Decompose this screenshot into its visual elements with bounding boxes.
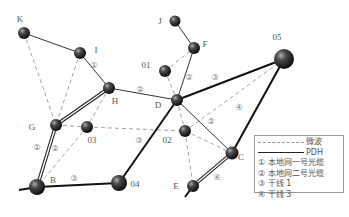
edge-05-02-dashed: [185, 59, 284, 131]
node-sphere-icon: [159, 65, 171, 77]
edge-label: ①: [90, 61, 97, 70]
node-sphere-icon: [187, 180, 199, 192]
legend-label: ① 本地网一号光缆: [258, 158, 324, 169]
edge-k-i-thin: [24, 33, 80, 53]
node-sphere-icon: [274, 49, 294, 69]
legend-label: PDH: [306, 148, 323, 159]
node-sphere-icon: [103, 82, 115, 94]
edge-label: ③: [211, 73, 218, 82]
edges-layer: [19, 21, 284, 197]
node-sphere-icon: [18, 27, 30, 39]
node-label: K: [17, 14, 24, 24]
legend-item-pdh: PDH: [258, 148, 340, 159]
edge-label: ③: [70, 174, 77, 183]
node-label: 01: [142, 60, 151, 70]
node-sphere-icon: [50, 119, 62, 131]
node-label: 05: [273, 32, 283, 42]
legend-label: ③ 干线 1: [258, 179, 291, 190]
node-c: C: [226, 147, 245, 163]
node-label: E: [173, 181, 179, 191]
edge-i-h-thin: [80, 53, 109, 88]
legend: 微波 PDH ① 本地网一号光缆 ② 本地网二号光缆 ③ 干线 1 ④ 干线 3: [254, 135, 344, 193]
node-label: F: [202, 39, 207, 49]
node-sphere-icon: [170, 16, 181, 27]
legend-item-cable-2: ② 本地网二号光缆: [258, 169, 340, 180]
edge-label: ②: [136, 85, 143, 94]
node-f: F: [188, 39, 208, 54]
solid-line-swatch: [258, 152, 304, 153]
node-label: B: [50, 175, 56, 185]
legend-item-cable-1: ① 本地网一号光缆: [258, 158, 340, 169]
node-label: 03: [88, 135, 98, 145]
node-04: 04: [111, 175, 140, 191]
node-sphere-icon: [74, 47, 86, 59]
legend-label: 微波: [306, 137, 322, 148]
node-sphere-icon: [188, 42, 200, 54]
edge-02-e-dashed: [185, 131, 193, 186]
node-01: 01: [142, 60, 172, 77]
edge-02-c-dashed: [185, 131, 232, 153]
node-05: 05: [273, 32, 295, 69]
edge-g-h-double: [56, 88, 109, 125]
node-label: 04: [131, 179, 141, 189]
node-sphere-icon: [171, 94, 183, 106]
edge-k-g-dashed: [24, 33, 56, 125]
node-sphere-icon: [179, 125, 191, 137]
node-label: D: [155, 100, 162, 110]
edge-i-g-dashed: [56, 53, 80, 125]
edge-label: ③: [135, 136, 142, 145]
legend-label: ② 本地网二号光缆: [258, 169, 324, 180]
edge-label: ②: [51, 144, 58, 153]
node-g: G: [29, 119, 62, 132]
node-02: 02: [163, 125, 192, 145]
edge-labels-layer: ①②②②③③③①④②④: [33, 61, 242, 183]
node-b: B: [29, 175, 56, 195]
dashed-line-swatch: [258, 142, 304, 143]
node-sphere-icon: [81, 121, 93, 133]
node-label: 02: [163, 135, 172, 145]
node-label: J: [158, 16, 162, 26]
node-i: I: [74, 45, 98, 59]
node-sphere-icon: [29, 179, 45, 195]
node-label: H: [112, 96, 119, 106]
edge-d-05-thick: [177, 59, 284, 100]
node-label: C: [238, 152, 244, 162]
legend-item-trunk-3: ④ 干线 3: [258, 190, 340, 201]
node-label: G: [29, 122, 36, 132]
nodes-layer: KIHDJF0105G0302CB04E: [17, 14, 294, 195]
edge-03-02-dashed: [87, 127, 185, 131]
node-label: I: [95, 45, 98, 55]
node-sphere-icon: [111, 175, 127, 191]
legend-item-trunk-1: ③ 干线 1: [258, 179, 340, 190]
node-sphere-icon: [226, 147, 239, 160]
edge-label: ②: [185, 73, 192, 82]
edge-label: ①: [33, 143, 40, 152]
legend-label: ④ 干线 3: [258, 190, 291, 201]
node-k: K: [17, 14, 30, 39]
legend-item-microwave: 微波: [258, 137, 340, 148]
edge-label: ④: [213, 173, 220, 182]
node-j: J: [158, 16, 180, 27]
edge-label: ②: [207, 117, 214, 126]
node-03: 03: [81, 121, 97, 145]
edge-label: ④: [235, 103, 242, 112]
node-e: E: [173, 180, 199, 192]
